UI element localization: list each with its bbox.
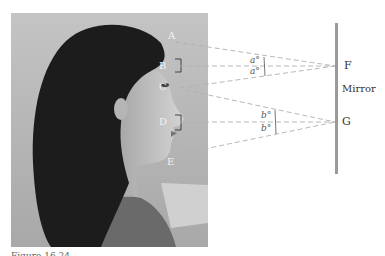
rays-to-g <box>180 90 335 154</box>
angle-arc-a <box>264 57 265 76</box>
bracket-d <box>175 115 181 130</box>
ray-diagram <box>0 0 385 256</box>
mirror <box>335 23 338 174</box>
angle-a-upper: a° <box>250 55 260 65</box>
bracket-b <box>175 59 181 72</box>
figure-caption: Figure 16.24 <box>11 249 70 256</box>
point-a-label: A <box>168 31 175 41</box>
rays-to-f <box>175 42 335 88</box>
point-c-label: C <box>159 82 167 92</box>
mirror-reflection-figure: A B C D E a° a° b° b° F Mirror G Figure … <box>0 0 385 256</box>
point-f-label: F <box>344 61 352 71</box>
angle-b-lower: b° <box>261 123 271 133</box>
point-e-label: E <box>167 157 174 167</box>
angle-a-lower: a° <box>250 66 260 76</box>
point-g-label: G <box>342 117 351 127</box>
mirror-label: Mirror <box>342 84 376 94</box>
point-b-label: B <box>159 61 166 71</box>
point-d-label: D <box>159 117 167 127</box>
angle-b-upper: b° <box>261 110 271 120</box>
angle-arc-b <box>275 110 276 134</box>
